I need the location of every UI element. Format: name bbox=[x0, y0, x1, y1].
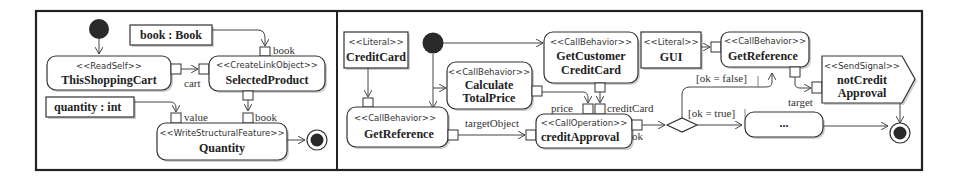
pin-label-ok: ok bbox=[632, 130, 644, 142]
pin-label-targetobject: targetObject bbox=[465, 117, 519, 129]
decision-node[interactable] bbox=[667, 118, 697, 132]
pin-creditcard[interactable] bbox=[595, 104, 605, 114]
action-name-calculate: Calculate bbox=[465, 78, 514, 92]
pin-book-write[interactable] bbox=[243, 113, 253, 123]
pin-label-value: value bbox=[184, 111, 208, 123]
uml-activity-diagrams: book : Book <<ReadSelf>> ThisShoppingCar… bbox=[0, 0, 959, 180]
action-calculate-total-price[interactable]: <<CallBehavior>> Calculate TotalPrice bbox=[447, 62, 534, 111]
pin-readself-output[interactable] bbox=[171, 64, 181, 74]
guard-ok-false: [ok = false] bbox=[696, 72, 747, 84]
pin-getcustomer-output[interactable] bbox=[595, 83, 605, 92]
action-get-reference-1[interactable]: <<CallBehavior>> GetReference bbox=[347, 107, 450, 149]
edge-book-to-createlink bbox=[212, 30, 265, 46]
action-ellipsis[interactable]: ... bbox=[745, 112, 825, 139]
pin-ok[interactable] bbox=[632, 120, 642, 130]
stereotype-literal-creditcard: <<Literal>> bbox=[348, 37, 403, 47]
pin-target[interactable] bbox=[812, 82, 822, 93]
initial-node-left bbox=[89, 19, 109, 39]
pin-getreference2-output[interactable] bbox=[790, 67, 800, 77]
pin-getreference1-input[interactable] bbox=[363, 98, 373, 107]
action-literal-creditcard[interactable]: <<Literal>> CreditCard bbox=[344, 32, 410, 70]
pin-getreference2-input[interactable] bbox=[711, 42, 721, 52]
pin-label-price: price bbox=[551, 102, 573, 114]
action-get-reference-2[interactable]: <<CallBehavior>> GetReference bbox=[721, 32, 811, 69]
left-activity-diagram: book : Book <<ReadSelf>> ThisShoppingCar… bbox=[46, 19, 327, 162]
action-send-signal-not-credit-approval[interactable]: <<SendSignal>> notCredit Approval bbox=[822, 56, 917, 105]
action-name-getreference1: GetReference bbox=[364, 127, 434, 141]
action-name-notcredit: notCredit bbox=[837, 73, 887, 87]
pin-label-cart: cart bbox=[184, 77, 200, 89]
action-literal-gui[interactable]: <<Literal>> GUI bbox=[641, 32, 703, 70]
right-activity-diagram: <<Literal>> CreditCard <<CallBehavior>> … bbox=[344, 32, 917, 150]
stereotype-readself: <<ReadSelf>> bbox=[76, 61, 142, 71]
stereotype-getreference2: <<CallBehavior>> bbox=[724, 36, 806, 46]
edge-quantity-to-write bbox=[134, 102, 176, 112]
pin-price[interactable] bbox=[583, 104, 593, 114]
object-node-book[interactable]: book : Book bbox=[130, 25, 214, 47]
stereotype-literal-gui: <<Literal>> bbox=[643, 37, 698, 47]
action-write-structural-feature[interactable]: <<WriteStructuralFeature>> Quantity bbox=[157, 123, 289, 162]
object-node-book-label: book : Book bbox=[140, 28, 202, 42]
stereotype-sendsignal: <<SendSignal>> bbox=[824, 61, 900, 71]
stereotype-getreference1: <<CallBehavior>> bbox=[354, 113, 436, 123]
pin-label-book-input: book bbox=[273, 44, 296, 56]
pin-label-target: target bbox=[788, 96, 813, 108]
initial-node-right bbox=[423, 33, 444, 54]
action-name-getreference2: GetReference bbox=[728, 49, 798, 63]
action-name-selectedproduct: SelectedProduct bbox=[225, 73, 308, 87]
pin-cart[interactable] bbox=[199, 64, 209, 74]
action-name-creditcard: CreditCard bbox=[346, 50, 406, 64]
stereotype-writestructuralfeature: <<WriteStructuralFeature>> bbox=[159, 128, 284, 138]
action-name-thisshoppingcart: ThisShoppingCart bbox=[61, 73, 156, 87]
pin-targetobject[interactable] bbox=[526, 130, 536, 140]
action-get-customer-creditcard[interactable]: <<CallBehavior>> GetCustomer CreditCard bbox=[544, 32, 640, 85]
object-node-quantity[interactable]: quantity : int bbox=[46, 97, 136, 119]
pin-label-creditcard: creditCard bbox=[607, 102, 654, 114]
object-node-quantity-label: quantity : int bbox=[54, 100, 121, 114]
pin-label-book-write: book bbox=[255, 111, 278, 123]
final-node-left bbox=[307, 130, 327, 150]
action-credit-approval[interactable]: <<CallOperation>> creditApproval bbox=[536, 114, 634, 150]
action-name-gui: GUI bbox=[660, 50, 683, 64]
stereotype-getcustomer: <<CallBehavior>> bbox=[550, 37, 632, 47]
stereotype-createlinkobject: <<CreateLinkObject>> bbox=[216, 60, 318, 70]
pin-createlink-output[interactable] bbox=[243, 91, 253, 100]
edge-getreference2-to-target bbox=[795, 77, 811, 88]
pin-getreference1-output[interactable] bbox=[448, 130, 458, 140]
action-read-self[interactable]: <<ReadSelf>> ThisShoppingCart bbox=[47, 56, 173, 92]
action-create-link-object[interactable]: <<CreateLinkObject>> SelectedProduct bbox=[209, 56, 327, 93]
stereotype-calculate: <<CallBehavior>> bbox=[448, 67, 530, 77]
pin-calculate-output[interactable] bbox=[532, 86, 542, 96]
pin-value[interactable] bbox=[171, 113, 181, 123]
action-name-approval: Approval bbox=[838, 86, 887, 100]
guard-ok-true: [ok = true] bbox=[688, 107, 735, 119]
action-name-creditapproval: creditApproval bbox=[541, 130, 620, 144]
action-name-quantity: Quantity bbox=[199, 141, 245, 155]
pin-book-input[interactable] bbox=[260, 47, 270, 56]
action-name-ellipsis: ... bbox=[780, 116, 789, 130]
action-name-creditcard-2: CreditCard bbox=[561, 63, 621, 77]
action-name-getcustomer: GetCustomer bbox=[556, 49, 626, 63]
stereotype-calloperation: <<CallOperation>> bbox=[541, 118, 628, 128]
action-name-totalprice: TotalPrice bbox=[463, 91, 517, 105]
final-node-right bbox=[890, 123, 910, 143]
